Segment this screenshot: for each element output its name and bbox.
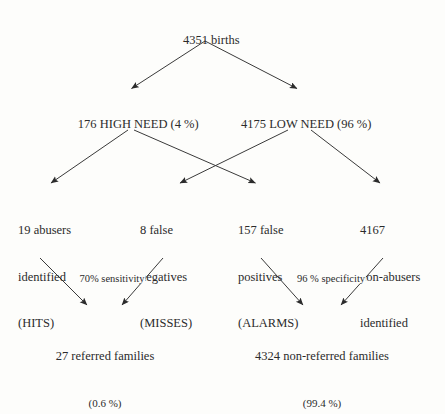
node-high-need-label: 176 HIGH NEED (4 %) — [78, 117, 199, 131]
node-nonabusers-line2: non-abusers — [360, 270, 420, 286]
node-misses-line1: 8 false — [140, 223, 192, 239]
node-referred-label: 27 referred families — [56, 349, 155, 365]
edge-label-specificity: 96 % specificity — [296, 273, 366, 284]
node-nonreferred-label: 4324 non-referred families — [255, 349, 389, 365]
node-nonabusers-line1: 4167 — [360, 223, 420, 239]
node-root: 4351 births — [170, 17, 239, 64]
node-low-need-label: 4175 LOW NEED (96 %) — [241, 117, 371, 131]
node-referred: 27 referred families (0.6 %) — [56, 318, 155, 414]
edge-label-sensitivity: 70% sensitivity — [78, 273, 145, 284]
node-misses-line2: negatives — [140, 270, 192, 286]
node-low-need: 4175 LOW NEED (96 %) — [229, 101, 372, 148]
node-hits-line1: 19 abusers — [18, 223, 71, 239]
node-root-label: 4351 births — [183, 33, 240, 47]
node-nonreferred: 4324 non-referred families (99.4 %) — [255, 318, 389, 414]
node-nonreferred-sublabel: (99.4 %) — [255, 396, 389, 412]
node-hits-line2: identified — [18, 270, 71, 286]
node-referred-sublabel: (0.6 %) — [56, 396, 155, 412]
node-alarms-line2: positives — [238, 270, 298, 286]
node-high-need: 176 HIGH NEED (4 %) — [65, 101, 198, 148]
node-alarms-line1: 157 false — [238, 223, 298, 239]
